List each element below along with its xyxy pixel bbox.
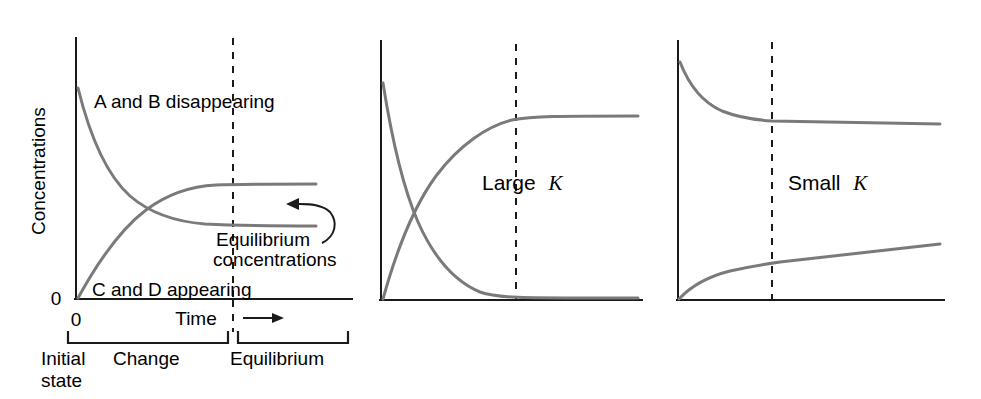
- annotation-arrowhead: [286, 198, 299, 210]
- right-panel-label-text: Small: [788, 171, 841, 194]
- left-y-origin-label: 0: [51, 288, 62, 309]
- equilibrium-figure: Concentrations 0 0 A and B disappearing …: [0, 0, 981, 399]
- middle-panel: Large K: [380, 41, 642, 300]
- middle-curve-products: [383, 116, 638, 299]
- stage-label-change: Change: [113, 348, 180, 369]
- annotation-equilibrium-line2: concentrations: [213, 249, 337, 270]
- left-x-origin-label: 0: [71, 309, 82, 330]
- right-panel: Small K: [677, 41, 944, 300]
- middle-panel-label-symbol: K: [548, 171, 564, 195]
- middle-panel-label: Large K: [482, 171, 564, 195]
- right-panel-label-symbol: K: [852, 171, 868, 195]
- time-direction-arrowhead: [272, 313, 284, 323]
- middle-panel-label-text: Large: [482, 171, 536, 194]
- stage-label-state: state: [41, 370, 82, 391]
- left-y-axis-label: Concentrations: [28, 107, 49, 235]
- right-panel-label: Small K: [788, 171, 868, 195]
- bracket-equilibrium-region: [238, 331, 348, 343]
- label-a-and-b-disappearing: A and B disappearing: [94, 91, 275, 112]
- right-curve-products: [679, 244, 940, 299]
- stage-label-equilibrium: Equilibrium: [230, 348, 324, 369]
- right-curve-reactants: [680, 62, 940, 124]
- annotation-equilibrium-line1: Equilibrium: [216, 229, 310, 250]
- left-x-axis-label: Time: [175, 308, 217, 329]
- label-c-and-d-appearing: C and D appearing: [92, 279, 252, 300]
- left-panel: Concentrations 0 0 A and B disappearing …: [28, 38, 352, 391]
- bracket-change-region: [68, 331, 228, 343]
- stage-label-initial: Initial: [41, 348, 85, 369]
